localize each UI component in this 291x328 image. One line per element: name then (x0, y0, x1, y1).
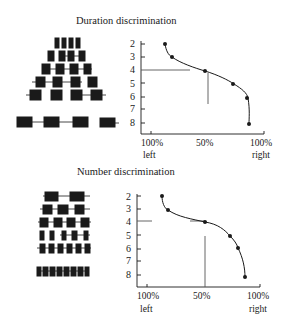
svg-text:5: 5 (130, 78, 135, 89)
stimulus-row (43, 192, 90, 201)
svg-text:left: left (140, 304, 153, 314)
x-axis (137, 284, 260, 287)
svg-text:right: right (252, 150, 270, 160)
stimulus-row (32, 77, 97, 87)
svg-text:2: 2 (126, 191, 131, 202)
data-points (160, 194, 247, 279)
duration-chart: 2 3 4 5 6 7 8 100% 50% 100% left right (130, 38, 272, 160)
x-tick-labels: 100% 50% 100% left right (137, 291, 269, 314)
svg-text:4: 4 (130, 64, 135, 75)
y-axis (141, 41, 145, 134)
svg-text:3: 3 (126, 203, 131, 214)
svg-text:right: right (249, 304, 267, 314)
stimulus-row (37, 244, 91, 253)
number-chart: 2 3 4 5 6 7 8 100% 50% 100% left right (126, 191, 269, 314)
stimulus-row (26, 90, 106, 100)
figure-canvas: 2 3 4 5 6 7 8 100% 50% 100% left right (0, 0, 291, 328)
pse-lines (137, 221, 205, 287)
y-tick-labels: 2 3 4 5 6 7 8 (126, 191, 131, 280)
stimulus-row (38, 218, 91, 227)
y-tick-labels: 2 3 4 5 6 7 8 (130, 38, 135, 128)
stimulus-row (37, 267, 89, 276)
stimulus-row (40, 231, 90, 240)
svg-text:50%: 50% (196, 138, 214, 148)
number-stimuli (37, 192, 91, 276)
pse-lines (141, 70, 208, 104)
svg-text:8: 8 (126, 269, 131, 280)
data-points (163, 42, 251, 126)
svg-text:100%: 100% (141, 138, 163, 148)
svg-text:4: 4 (126, 216, 131, 227)
duration-stimuli (17, 38, 119, 127)
stimulus-row (40, 205, 90, 214)
y-axis (137, 194, 141, 287)
svg-text:5: 5 (126, 230, 131, 241)
svg-text:left: left (143, 150, 156, 160)
stimulus-row (42, 64, 92, 74)
svg-text:8: 8 (130, 117, 135, 128)
svg-text:7: 7 (130, 103, 135, 114)
svg-text:7: 7 (126, 255, 131, 266)
svg-text:6: 6 (126, 243, 131, 254)
psychometric-curve (165, 44, 249, 124)
svg-text:6: 6 (130, 91, 135, 102)
stimulus-row (55, 38, 80, 48)
svg-text:100%: 100% (250, 138, 272, 148)
x-axis (141, 131, 264, 134)
svg-text:3: 3 (130, 51, 135, 62)
psychometric-curve (162, 196, 245, 277)
x-tick-labels: 100% 50% 100% left right (141, 138, 272, 160)
svg-text:100%: 100% (137, 291, 159, 301)
stimulus-row (17, 117, 119, 127)
svg-text:50%: 50% (193, 291, 211, 301)
svg-text:2: 2 (130, 38, 135, 49)
stimulus-row (48, 51, 85, 61)
svg-text:100%: 100% (247, 291, 269, 301)
